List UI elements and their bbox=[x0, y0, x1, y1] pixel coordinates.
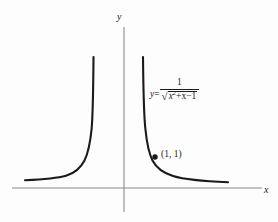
equation-annotation: y = 1 √ x2+x−1 bbox=[150, 78, 199, 102]
equation-fraction: 1 √ x2+x−1 bbox=[160, 78, 200, 102]
radicand: x2+x−1 bbox=[168, 91, 198, 102]
radicand-rest: +x−1 bbox=[176, 91, 196, 101]
equation-numerator: 1 bbox=[173, 78, 186, 89]
curve-right-branch bbox=[143, 57, 228, 182]
radical-group: √ x2+x−1 bbox=[162, 91, 198, 102]
equation-denominator: √ x2+x−1 bbox=[160, 90, 200, 102]
point-annotation-label: (1, 1) bbox=[161, 150, 182, 160]
y-axis-label: y bbox=[117, 12, 121, 22]
function-graph-figure: y x (1, 1) y = 1 √ x2+x−1 bbox=[0, 0, 278, 222]
plot-canvas bbox=[0, 0, 278, 222]
x-axis-label: x bbox=[264, 185, 268, 195]
marked-point bbox=[152, 154, 157, 159]
curve-left-branch bbox=[25, 57, 94, 180]
